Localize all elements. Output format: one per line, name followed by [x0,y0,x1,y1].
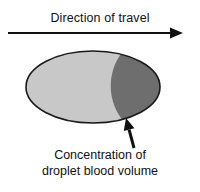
callout-arrow-head [124,118,135,131]
caption-line-2: droplet blood volume [0,164,200,180]
concentration-callout-arrow [124,118,135,148]
direction-of-travel-arrow [8,28,183,39]
concentration-caption: Concentration of droplet blood volume [0,148,200,179]
blood-droplet-diagram: Direction of travel Concentration of dr [0,0,200,192]
droplet-stain [26,50,164,124]
direction-arrow-head [170,28,183,39]
callout-arrow-shaft [129,130,134,148]
droplet-dark-concentration-region [111,50,164,124]
caption-line-1: Concentration of [0,148,200,164]
